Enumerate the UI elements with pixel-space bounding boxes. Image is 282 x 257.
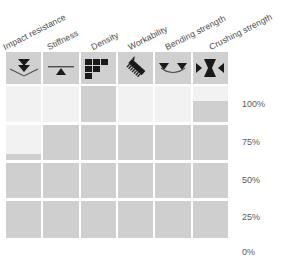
hourglass-compression-icon — [194, 56, 226, 80]
y-axis-tick-0: 0% — [242, 247, 255, 257]
y-axis-tick-labels: 100% 75% 50% 25% 0% — [238, 86, 282, 238]
bar-plot-area — [6, 86, 228, 238]
column-header-band: Impact resistance Stiffness Density Work… — [0, 0, 282, 52]
diagonal-saw-blade-icon — [121, 55, 151, 81]
icon-cell-workability — [118, 52, 153, 84]
bar-fill-density — [81, 86, 116, 238]
bar-column-impact-resistance — [6, 86, 41, 238]
y-axis-tick-25: 25% — [242, 212, 260, 222]
stacked-bricks-icon — [83, 56, 113, 80]
bar-column-stiffness — [43, 86, 78, 238]
bar-column-density — [81, 86, 116, 238]
bar-fill-impact-resistance — [6, 154, 41, 238]
y-axis-tick-75: 75% — [242, 137, 260, 147]
bar-fill-stiffness — [43, 124, 78, 238]
y-axis-tick-50: 50% — [242, 175, 260, 185]
column-header-workability: Workability — [127, 25, 169, 52]
double-chevron-down-impact-icon — [8, 56, 40, 80]
bar-fill-crushing-strength — [193, 101, 228, 238]
icon-cell-crushing-strength — [193, 52, 228, 84]
bar-fill-workability — [118, 124, 153, 238]
column-header-stiffness: Stiffness — [46, 29, 80, 52]
bar-fill-bending-strength — [155, 124, 190, 238]
beam-sagging-between-supports-icon — [156, 57, 190, 79]
icon-cell-bending-strength — [155, 52, 190, 84]
column-header-density: Density — [90, 31, 120, 52]
icon-cell-density — [81, 52, 116, 84]
bar-column-bending-strength — [155, 86, 190, 238]
bar-column-crushing-strength — [193, 86, 228, 238]
beam-on-fulcrum-icon — [45, 56, 77, 80]
property-icon-row — [6, 52, 228, 84]
y-axis-tick-100: 100% — [242, 99, 265, 109]
bar-column-workability — [118, 86, 153, 238]
icon-cell-stiffness — [43, 52, 78, 84]
icon-cell-impact-resistance — [6, 52, 41, 84]
